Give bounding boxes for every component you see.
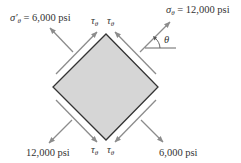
bottom-right-stress-label: 6,000 psi	[159, 148, 198, 159]
theta-angle-label: θ	[164, 35, 169, 46]
bottom-left-stress-label: 12,000 psi	[26, 148, 70, 159]
normal-arrow-lower-left	[49, 120, 72, 143]
tau-subscript: θ	[95, 149, 98, 157]
tau-subscript: θ	[111, 149, 114, 157]
theta-arc	[155, 38, 160, 48]
tau-subscript: θ	[111, 20, 114, 28]
tau-bottom-left-label: τθ	[91, 145, 98, 157]
normal-arrow-lower-right	[141, 120, 163, 142]
sigma-prime-value: = 6,000 psi	[21, 12, 71, 23]
tau-top-left-label: τθ	[91, 16, 98, 28]
tau-bottom-right-label: τθ	[107, 145, 114, 157]
tau-subscript: θ	[95, 20, 98, 28]
sigma-theta-label: σθ = 12,000 psi	[166, 5, 230, 17]
sigma-value: = 12,000 psi	[175, 4, 230, 15]
normal-arrow-upper-left	[50, 28, 73, 52]
tau-top-right-label: τθ	[107, 16, 114, 28]
sigma-prime-theta-label: σ′θ = 6,000 psi	[10, 13, 71, 25]
